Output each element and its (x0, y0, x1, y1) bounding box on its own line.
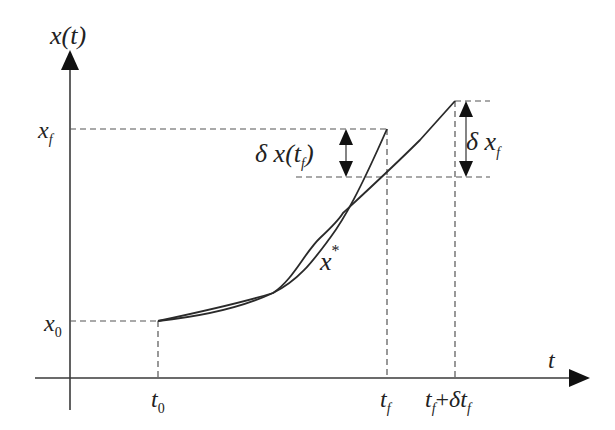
delta-x-tf-down-arrow-icon (339, 161, 353, 177)
x0-label: x0 (43, 310, 62, 340)
tf-plus-delta-tf-label: tf+δtf (425, 386, 473, 416)
y-axis-arrow-icon (61, 50, 79, 70)
delta-xf-down-arrow-icon (459, 161, 473, 177)
x-axis-arrow-icon (569, 369, 590, 387)
delta-xf-label: δ xf (466, 127, 502, 160)
x-axis-label: t (548, 347, 556, 373)
optimal-curve-label: x* (319, 242, 340, 276)
delta-x-tf-arrow (339, 129, 353, 177)
axes (35, 50, 590, 410)
y-axis-label: x(t) (49, 21, 86, 50)
delta-x-tf-label: δ x(tf) (255, 139, 314, 171)
trajectories (158, 101, 455, 321)
xf-label: xf (37, 117, 55, 147)
perturbed-trajectory-curve (158, 101, 455, 321)
optimal-control-variation-diagram: x(t) t xf x0 t0 tf (0, 0, 615, 430)
t0-label: t0 (151, 386, 165, 416)
delta-x-tf-up-arrow-icon (339, 129, 353, 145)
delta-xf-up-arrow-icon (459, 101, 473, 117)
tf-label: tf (380, 386, 393, 416)
